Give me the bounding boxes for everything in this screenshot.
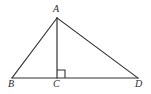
- vertex-label-d: D: [135, 79, 142, 89]
- triangle-diagram-svg: [0, 0, 151, 94]
- vertex-label-b: B: [8, 79, 14, 89]
- segment-ad: [57, 18, 138, 78]
- vertex-label-c: C: [53, 79, 60, 89]
- segment-ab: [12, 18, 57, 78]
- vertex-label-a: A: [53, 4, 59, 14]
- right-angle-marker-icon: [57, 70, 65, 78]
- geometry-figure: A B C D: [0, 0, 151, 94]
